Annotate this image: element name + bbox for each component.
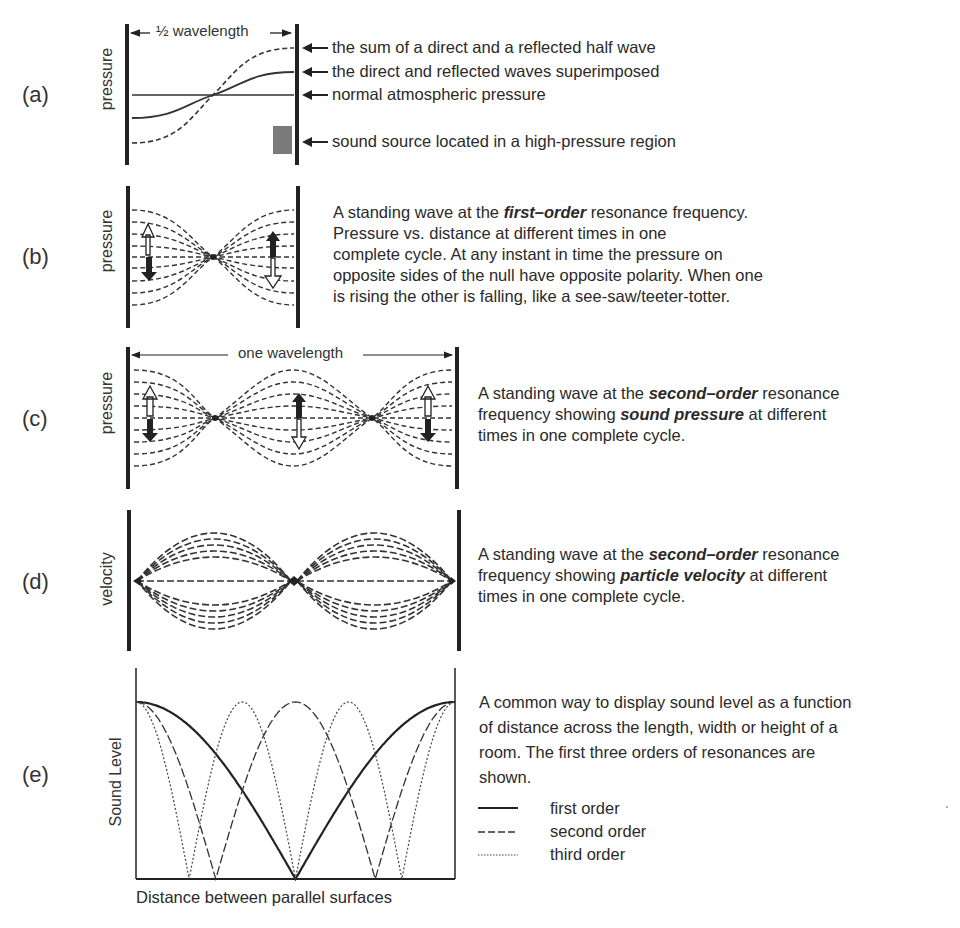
- pressure-null-2: [369, 415, 375, 421]
- legend-item-third-order: third order: [550, 843, 646, 865]
- series-third-order: [136, 702, 455, 879]
- panel-label-d: (d): [22, 569, 49, 595]
- arrow-left-icon: [304, 94, 328, 96]
- note-line: complete cycle. At any instant in time t…: [333, 244, 893, 265]
- left-wall: [126, 186, 130, 328]
- velocity-node-center: [288, 576, 300, 586]
- note-line: times in one complete cycle.: [478, 586, 948, 607]
- note-line: is rising the other is falling, like a s…: [333, 286, 893, 307]
- sound-source-box: [273, 126, 292, 154]
- standing-wave-curves: [134, 370, 452, 466]
- pressure-null-1: [212, 415, 218, 421]
- note-line: opposite sides of the null have opposite…: [333, 265, 893, 286]
- y-axis-label-d: velocity: [98, 544, 116, 614]
- panel-a-diagram: [125, 24, 299, 165]
- one-wavelength-label: one wavelength: [236, 344, 345, 361]
- note-line: shown.: [479, 765, 949, 790]
- note-b: A standing wave at the first–order reson…: [333, 202, 893, 307]
- note-c: A standing wave at the second–order reso…: [478, 383, 948, 446]
- right-wall: [295, 24, 299, 165]
- legend-item-first-order: first order: [550, 797, 646, 819]
- note-line: frequency showing sound pressure at diff…: [478, 404, 948, 425]
- legend-item-second-order: second order: [550, 820, 646, 842]
- arrow-left-icon: [304, 71, 328, 73]
- legend-swatches: [478, 808, 518, 855]
- panel-label-a: (a): [22, 82, 49, 108]
- callout-sum-wave: the sum of a direct and a reflected half…: [304, 38, 656, 57]
- y-axis-label-c: pressure: [98, 368, 116, 438]
- left-wall: [127, 510, 131, 651]
- panel-label-b: (b): [22, 244, 49, 270]
- half-wavelength-label: ½ wavelength: [156, 22, 249, 39]
- note-d: A standing wave at the second–order reso…: [478, 544, 948, 607]
- polarity-arrow-right: [420, 386, 436, 442]
- note-line: A standing wave at the second–order reso…: [478, 383, 948, 404]
- x-axis-label-e: Distance between parallel surfaces: [136, 888, 392, 907]
- note-line: times in one complete cycle.: [478, 425, 948, 446]
- note-line: A standing wave at the first–order reson…: [333, 202, 893, 223]
- callout-superimposed: the direct and reflected waves superimpo…: [304, 62, 659, 81]
- arrow-left-icon: [304, 141, 328, 143]
- callout-sound-source: sound source located in a high-pressure …: [304, 132, 676, 151]
- polarity-arrow-right: [265, 231, 281, 288]
- left-wall: [126, 347, 130, 489]
- note-line: A standing wave at the second–order reso…: [478, 544, 948, 565]
- left-wall: [125, 24, 129, 165]
- y-axis-label-e: Sound Level: [107, 732, 125, 832]
- note-e: A common way to display sound level as a…: [479, 690, 949, 790]
- y-axis-label-a: pressure: [98, 44, 116, 114]
- speck: [946, 806, 948, 808]
- y-axis-label-b: pressure: [98, 206, 116, 276]
- panel-label-e: (e): [22, 762, 49, 788]
- note-line: Pressure vs. distance at different times…: [333, 223, 893, 244]
- panel-e-chart: [136, 668, 455, 879]
- note-line: room. The first three orders of resonanc…: [479, 740, 949, 765]
- panel-d-diagram: [127, 510, 461, 651]
- polarity-arrow-center: [292, 393, 306, 449]
- right-wall: [457, 510, 461, 651]
- panel-c-diagram: [126, 347, 459, 489]
- arrow-left-icon: [304, 47, 328, 49]
- panel-label-c: (c): [22, 406, 48, 432]
- panel-b-diagram: [126, 186, 300, 328]
- legend: first order second order third order: [550, 797, 646, 865]
- right-wall: [455, 347, 459, 489]
- right-wall: [296, 186, 300, 328]
- note-line: frequency showing particle velocity at d…: [478, 565, 948, 586]
- callout-atmospheric: normal atmospheric pressure: [304, 85, 546, 104]
- note-line: of distance across the length, width or …: [479, 715, 949, 740]
- note-line: A common way to display sound level as a…: [479, 690, 949, 715]
- polarity-arrow-left: [141, 224, 157, 281]
- pressure-null: [210, 254, 216, 260]
